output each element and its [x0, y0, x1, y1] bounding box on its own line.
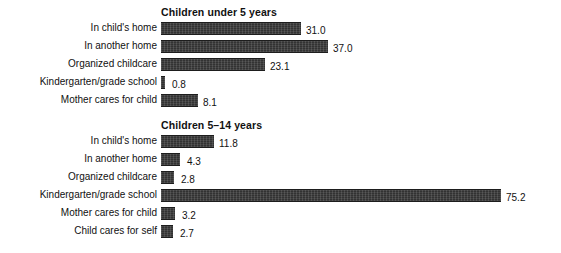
chart-figure: Children under 5 years In child's home 3… — [0, 0, 561, 253]
bar — [161, 225, 173, 238]
bar-row: In another home 4.3 — [0, 151, 561, 169]
bar-value-label: 75.2 — [506, 192, 525, 203]
bar-value-label: 0.8 — [172, 79, 186, 90]
bar — [161, 135, 214, 148]
bar-track: 11.8 — [161, 135, 557, 148]
bar-category-label: Mother cares for child — [0, 207, 157, 219]
bar-track: 37.0 — [161, 40, 557, 53]
bar-track: 8.1 — [161, 94, 557, 107]
bar — [161, 76, 165, 89]
bar-row: Child cares for self 2.7 — [0, 223, 561, 241]
bar-category-label: Organized childcare — [0, 58, 157, 70]
bar — [161, 207, 175, 220]
chart-title-children-under-5: Children under 5 years — [161, 6, 277, 18]
bar — [161, 94, 198, 107]
bar-row: Kindergarten/grade school 0.8 — [0, 74, 561, 92]
bar — [161, 171, 174, 184]
bar-track: 23.1 — [161, 58, 557, 71]
bar-category-label: Kindergarten/grade school — [0, 76, 157, 88]
bar-category-label: In child's home — [0, 22, 157, 34]
bar — [161, 189, 501, 202]
bar-category-label: Kindergarten/grade school — [0, 189, 157, 201]
bar-track: 31.0 — [161, 22, 557, 35]
bar-row: Mother cares for child 3.2 — [0, 205, 561, 223]
bar — [161, 22, 301, 35]
bar-track: 0.8 — [161, 76, 557, 89]
bar-row: Kindergarten/grade school 75.2 — [0, 187, 561, 205]
bar-value-label: 4.3 — [187, 156, 201, 167]
bar-value-label: 2.8 — [181, 174, 195, 185]
bar-category-label: In child's home — [0, 135, 157, 147]
bar-value-label: 37.0 — [333, 43, 352, 54]
bar-value-label: 3.2 — [182, 210, 196, 221]
bar-track: 75.2 — [161, 189, 557, 202]
bar-row: In another home 37.0 — [0, 38, 561, 56]
bar-rows-children-under-5: In child's home 31.0 In another home 37.… — [0, 20, 561, 110]
bar-value-label: 11.8 — [219, 138, 238, 149]
bar-track: 4.3 — [161, 153, 557, 166]
bar-rows-children-5-14: In child's home 11.8 In another home 4.3… — [0, 133, 561, 241]
bar-value-label: 23.1 — [270, 61, 289, 72]
bar-value-label: 8.1 — [203, 97, 217, 108]
bar — [161, 153, 180, 166]
bar-category-label: Organized childcare — [0, 171, 157, 183]
bar-row: In child's home 11.8 — [0, 133, 561, 151]
bar-row: Mother cares for child 8.1 — [0, 92, 561, 110]
bar-track: 2.8 — [161, 171, 557, 184]
bar-track: 3.2 — [161, 207, 557, 220]
bar — [161, 40, 328, 53]
bar-category-label: In another home — [0, 153, 157, 165]
bar-row: Organized childcare 2.8 — [0, 169, 561, 187]
bar-row: Organized childcare 23.1 — [0, 56, 561, 74]
chart-title-children-5-14: Children 5–14 years — [161, 119, 262, 131]
bar-row: In child's home 31.0 — [0, 20, 561, 38]
bar-value-label: 2.7 — [180, 228, 194, 239]
bar-category-label: Child cares for self — [0, 225, 157, 237]
bar-value-label: 31.0 — [306, 25, 325, 36]
bar-track: 2.7 — [161, 225, 557, 238]
bar-category-label: In another home — [0, 40, 157, 52]
bar — [161, 58, 265, 71]
bar-category-label: Mother cares for child — [0, 94, 157, 106]
